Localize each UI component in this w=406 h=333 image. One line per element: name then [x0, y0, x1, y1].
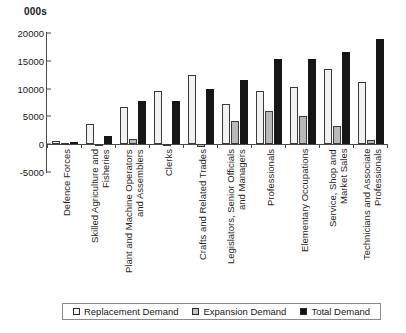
bar-replacement-demand: [188, 75, 196, 144]
bar-total-demand: [104, 136, 112, 144]
bar-expansion-demand: [95, 144, 103, 146]
bar-replacement-demand: [154, 91, 162, 145]
legend-label: Replacement Demand: [84, 306, 179, 317]
x-category-label: Skilled Agriculture and Fisheries: [90, 149, 112, 277]
bar-replacement-demand: [290, 87, 298, 144]
bar-total-demand: [240, 80, 248, 144]
bar-total-demand: [138, 101, 146, 144]
x-category-label: Crafts and Related Trades: [198, 149, 209, 277]
bar-replacement-demand: [256, 91, 264, 144]
legend-item: Replacement Demand: [73, 306, 179, 317]
bar-replacement-demand: [52, 141, 60, 144]
y-tick-label: 5000: [23, 111, 44, 122]
y-tick-label: -5000: [20, 167, 44, 178]
x-category-label: Elementary Occupations: [300, 149, 311, 277]
legend-item: Expansion Demand: [192, 306, 286, 317]
legend-swatch-icon: [73, 308, 80, 315]
bar-expansion-demand: [299, 116, 307, 145]
x-category-label: Service, Shop and Market Sales: [328, 149, 350, 277]
bar-replacement-demand: [324, 69, 332, 144]
y-tick-label: 0: [39, 139, 44, 150]
bar-expansion-demand: [231, 121, 239, 145]
bar-expansion-demand: [265, 111, 273, 144]
x-category-label: Technicians and Associate Professionals: [362, 149, 384, 277]
bar-replacement-demand: [120, 107, 128, 145]
x-category-label: Plant and Machine Operators and Assemble…: [124, 149, 146, 277]
bar-expansion-demand: [197, 144, 205, 147]
bar-expansion-demand: [61, 143, 69, 145]
y-axis-title: 000s: [24, 6, 47, 17]
x-category-label: Clerks: [164, 149, 175, 277]
bar-replacement-demand: [86, 124, 94, 145]
legend-swatch-icon: [192, 308, 199, 315]
legend-swatch-icon: [300, 308, 307, 315]
bar-replacement-demand: [358, 82, 366, 145]
bar-total-demand: [206, 89, 214, 145]
bar-replacement-demand: [222, 104, 230, 144]
bar-total-demand: [376, 39, 384, 144]
legend-item: Total Demand: [300, 306, 370, 317]
bar-total-demand: [172, 101, 180, 144]
bar-expansion-demand: [367, 140, 375, 144]
bar-expansion-demand: [129, 139, 137, 144]
x-category-label: Professionals: [266, 149, 277, 277]
bar-total-demand: [342, 52, 350, 144]
x-category-label: Legislators, Senior Officials and Manage…: [226, 149, 248, 277]
legend: Replacement DemandExpansion DemandTotal …: [62, 303, 381, 320]
bar-total-demand: [308, 59, 316, 144]
bar-expansion-demand: [333, 126, 341, 144]
y-tick-label: 10000: [18, 83, 44, 94]
y-axis-tick-labels: 20000150001000050000-5000: [0, 33, 44, 172]
bar-expansion-demand: [163, 144, 171, 146]
bar-total-demand: [274, 59, 282, 145]
x-category-label: Defence Forces: [62, 149, 73, 277]
legend-label: Expansion Demand: [203, 306, 286, 317]
bar-chart: 000s 20000150001000050000-5000 Defence F…: [0, 0, 406, 333]
y-tick-label: 20000: [18, 28, 44, 39]
x-axis-group-tick: [387, 144, 388, 148]
y-tick-label: 15000: [18, 55, 44, 66]
legend-label: Total Demand: [311, 306, 370, 317]
bar-total-demand: [70, 142, 78, 144]
